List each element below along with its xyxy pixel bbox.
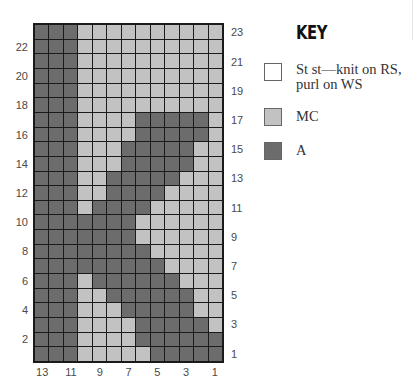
chart-cell	[49, 230, 62, 244]
chart-cell	[64, 113, 77, 127]
row-number-label: 16	[0, 129, 28, 141]
chart-cell	[194, 69, 207, 83]
chart-cell	[165, 54, 178, 68]
chart-cell	[136, 245, 149, 259]
chart-cell	[151, 318, 164, 332]
chart-cell	[194, 40, 207, 54]
chart-cell	[35, 40, 48, 54]
chart-cell	[136, 201, 149, 215]
chart-cell	[122, 289, 135, 303]
chart-cell	[194, 259, 207, 273]
chart-cell	[78, 40, 91, 54]
row-number-label: 23	[231, 26, 243, 38]
chart-cell	[136, 303, 149, 317]
chart-cell	[122, 186, 135, 200]
chart-cell	[209, 157, 222, 171]
chart-cell	[93, 113, 106, 127]
chart-cell	[64, 318, 77, 332]
row-number-label: 3	[231, 318, 237, 330]
chart-cell	[93, 186, 106, 200]
column-number-label: 13	[32, 366, 52, 378]
chart-cell	[107, 347, 120, 361]
chart-cell	[35, 186, 48, 200]
chart-cell	[209, 69, 222, 83]
chart-cell	[165, 201, 178, 215]
chart-cell	[49, 215, 62, 229]
chart-cell	[35, 259, 48, 273]
chart-cell	[93, 142, 106, 156]
chart-cell	[64, 201, 77, 215]
chart-cell	[209, 172, 222, 186]
chart-cell	[93, 25, 106, 39]
chart-cell	[194, 84, 207, 98]
chart-cell	[209, 245, 222, 259]
chart-cell	[180, 215, 193, 229]
chart-cell	[151, 303, 164, 317]
chart-cell	[35, 172, 48, 186]
column-number-label: 5	[147, 366, 167, 378]
chart-cell	[78, 54, 91, 68]
chart-cell	[78, 303, 91, 317]
chart-cell	[209, 289, 222, 303]
chart-cell	[209, 201, 222, 215]
chart-grid	[33, 23, 224, 363]
chart-cell	[151, 215, 164, 229]
chart-cell	[107, 333, 120, 347]
chart-cell	[180, 84, 193, 98]
chart-cell	[78, 186, 91, 200]
chart-cell	[49, 303, 62, 317]
chart-cell	[194, 347, 207, 361]
row-number-label: 11	[231, 202, 242, 214]
chart-cell	[78, 274, 91, 288]
chart-cell	[35, 98, 48, 112]
chart-cell	[122, 40, 135, 54]
chart-cell	[151, 142, 164, 156]
chart-cell	[165, 98, 178, 112]
chart-cell	[49, 69, 62, 83]
chart-cell	[180, 186, 193, 200]
chart-cell	[136, 274, 149, 288]
chart-cell	[194, 113, 207, 127]
chart-cell	[122, 259, 135, 273]
row-number-label: 1	[231, 348, 237, 360]
chart-cell	[165, 289, 178, 303]
chart-cell	[93, 215, 106, 229]
chart-cell	[122, 157, 135, 171]
chart-cell	[180, 142, 193, 156]
chart-cell	[165, 347, 178, 361]
chart-cell	[35, 69, 48, 83]
chart-cell	[151, 333, 164, 347]
row-number-label: 4	[0, 304, 28, 316]
key-item-stockinette-line1: St st—knit on RS,	[296, 62, 402, 77]
chart-cell	[180, 40, 193, 54]
chart-cell	[64, 142, 77, 156]
chart-cell	[194, 201, 207, 215]
chart-cell	[107, 201, 120, 215]
chart-cell	[49, 40, 62, 54]
chart-cell	[107, 172, 120, 186]
chart-cell	[180, 172, 193, 186]
chart-cell	[194, 333, 207, 347]
chart-cell	[93, 128, 106, 142]
chart-cell	[107, 157, 120, 171]
chart-cell	[136, 98, 149, 112]
knitting-chart: 222018161412108642 2321191715131197531 1…	[0, 0, 260, 378]
chart-cell	[122, 172, 135, 186]
a-swatch-icon	[264, 142, 282, 160]
chart-cell	[93, 84, 106, 98]
chart-cell	[107, 259, 120, 273]
chart-cell	[78, 259, 91, 273]
chart-cell	[122, 113, 135, 127]
chart-cell	[180, 230, 193, 244]
chart-cell	[49, 157, 62, 171]
chart-cell	[49, 84, 62, 98]
chart-cell	[49, 25, 62, 39]
chart-cell	[78, 84, 91, 98]
chart-cell	[194, 142, 207, 156]
chart-cell	[122, 303, 135, 317]
chart-cell	[122, 333, 135, 347]
chart-cell	[64, 333, 77, 347]
chart-cell	[35, 230, 48, 244]
chart-cell	[151, 274, 164, 288]
chart-cell	[122, 215, 135, 229]
